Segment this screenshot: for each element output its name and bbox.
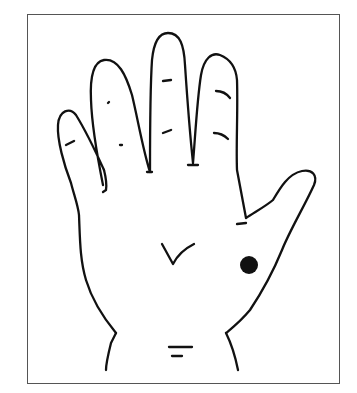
crease-middle-2	[163, 130, 171, 133]
hand-illustration	[0, 0, 357, 393]
wrist-left	[106, 333, 116, 370]
finger-base-1	[103, 170, 106, 192]
thumb-crease	[237, 223, 246, 224]
crease-index-1	[216, 91, 230, 98]
crease-ring-1	[108, 102, 109, 103]
wrist-right	[226, 333, 238, 370]
crease-middle-1	[163, 80, 171, 81]
hand-outline	[58, 33, 315, 333]
crease-index-2	[214, 133, 228, 139]
palm-crease-v	[162, 244, 194, 264]
crease-pinky	[66, 141, 74, 145]
acupoint-marker	[240, 256, 258, 274]
